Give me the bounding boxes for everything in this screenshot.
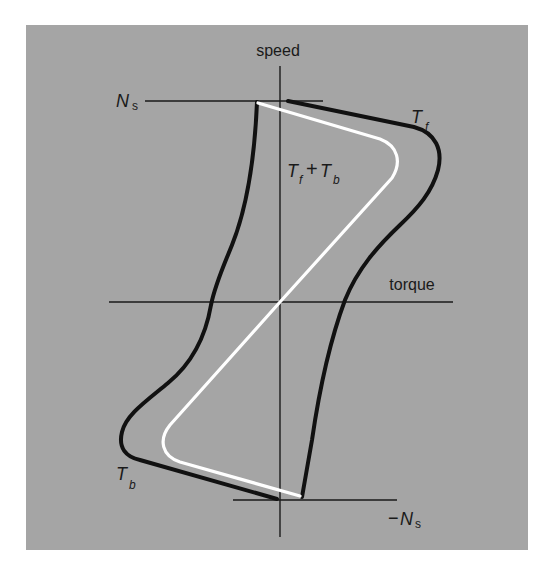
ns-label-main: N <box>116 91 130 111</box>
tb-label-sub: b <box>129 478 136 492</box>
neg-ns-label-prefix: − <box>388 508 399 528</box>
res-label-sub-2: b <box>333 173 340 187</box>
speed-axis-label: speed <box>256 42 300 59</box>
neg-ns-label-sub: s <box>415 517 421 531</box>
res-label-op: + <box>306 158 318 180</box>
speed-torque-diagram: speed torque N s − N s T f T b T f + T b <box>0 0 553 573</box>
torque-axis-label: torque <box>389 276 434 293</box>
neg-ns-label-main: N <box>400 509 414 529</box>
ns-label-sub: s <box>132 99 138 113</box>
diagram-panel <box>26 25 528 550</box>
